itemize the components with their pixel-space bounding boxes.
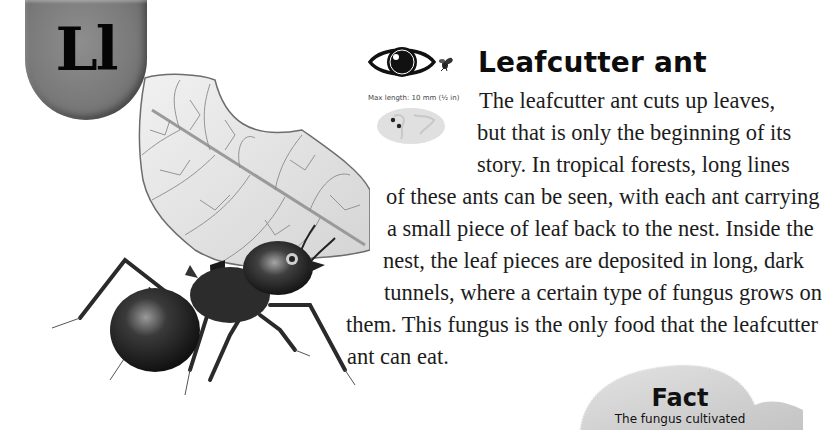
body-text-line: tunnels, where a certain type of fungus … xyxy=(384,280,822,306)
body-text-line: nest, the leaf pieces are deposited in l… xyxy=(383,248,804,274)
leafcutter-ant-illustration xyxy=(40,60,370,400)
body-text-line: a small piece of leaf back to the nest. … xyxy=(387,216,814,242)
body-text-line: The leafcutter ant cuts up leaves, xyxy=(479,88,775,114)
body-text-line: but that is only the beginning of its xyxy=(477,120,791,146)
body-text-line: of these ants can be seen, with each ant… xyxy=(386,184,820,210)
body-text-line: ant can eat. xyxy=(347,344,449,370)
eye-icon xyxy=(368,40,436,84)
fact-title: Fact xyxy=(615,384,745,412)
body-text-line: them. This fungus is the only food that … xyxy=(346,312,818,338)
max-length-label: Max length: 10 mm (½ in) xyxy=(368,94,468,102)
world-map-icon xyxy=(376,106,446,146)
size-info-panel: Max length: 10 mm (½ in) xyxy=(368,40,468,140)
body-text-line: story. In tropical forests, long lines xyxy=(477,152,790,178)
fly-icon xyxy=(438,56,454,72)
fact-text: The fungus cultivated xyxy=(585,412,775,426)
entry-title: Leafcutter ant xyxy=(478,46,707,79)
